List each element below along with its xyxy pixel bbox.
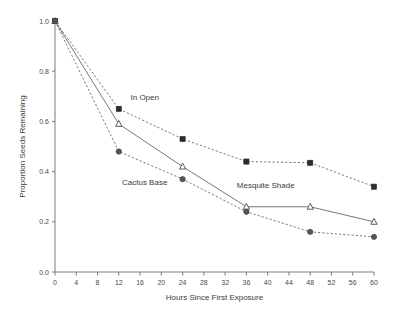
- data-point-triangle: [179, 163, 185, 169]
- data-point-circle: [371, 234, 376, 239]
- x-tick-label: 12: [115, 279, 123, 286]
- data-point-circle: [308, 229, 313, 234]
- series-annotation-in-open: In Open: [130, 93, 158, 102]
- chart-container: 0.00.20.40.60.81.00481216202428323640444…: [0, 0, 394, 318]
- series-annotation-mesquite-shade: Mesquite Shade: [237, 181, 295, 190]
- x-tick-label: 44: [285, 279, 293, 286]
- x-tick-label: 24: [179, 279, 187, 286]
- series-line: [55, 21, 374, 187]
- y-tick-label: 1.0: [39, 18, 49, 25]
- series-annotation-cactus-base: Cactus Base: [122, 178, 168, 187]
- data-point-square: [116, 106, 121, 111]
- data-point-circle: [244, 209, 249, 214]
- series-line: [55, 21, 374, 222]
- data-point-triangle: [243, 203, 249, 209]
- data-point-circle: [52, 18, 57, 23]
- x-tick-label: 60: [370, 279, 378, 286]
- data-point-square: [180, 136, 185, 141]
- series-in-open: [52, 18, 376, 189]
- data-point-triangle: [307, 203, 313, 209]
- y-tick-label: 0.8: [39, 68, 49, 75]
- y-tick-label: 0.4: [39, 168, 49, 175]
- x-tick-label: 36: [243, 279, 251, 286]
- x-tick-label: 48: [306, 279, 314, 286]
- data-point-circle: [180, 176, 185, 181]
- x-tick-label: 40: [264, 279, 272, 286]
- data-point-circle: [116, 149, 121, 154]
- y-axis-title: Proportion Seeds Remaining: [18, 95, 27, 197]
- series-line: [55, 21, 374, 237]
- x-tick-label: 56: [349, 279, 357, 286]
- data-point-square: [308, 160, 313, 165]
- x-axis-title: Hours Since First Exposure: [166, 293, 264, 302]
- data-point-square: [371, 184, 376, 189]
- line-chart: 0.00.20.40.60.81.00481216202428323640444…: [0, 0, 394, 318]
- x-tick-label: 52: [328, 279, 336, 286]
- y-tick-label: 0.6: [39, 118, 49, 125]
- series-cactus-base: [52, 18, 376, 239]
- x-tick-label: 16: [136, 279, 144, 286]
- x-tick-label: 28: [200, 279, 208, 286]
- x-tick-label: 0: [53, 279, 57, 286]
- x-tick-label: 32: [221, 279, 229, 286]
- y-tick-label: 0.0: [39, 269, 49, 276]
- x-tick-label: 20: [157, 279, 165, 286]
- x-tick-label: 4: [74, 279, 78, 286]
- y-tick-label: 0.2: [39, 218, 49, 225]
- data-point-square: [244, 159, 249, 164]
- data-point-triangle: [116, 121, 122, 127]
- x-tick-label: 8: [96, 279, 100, 286]
- series-mesquite-shade: [52, 18, 377, 225]
